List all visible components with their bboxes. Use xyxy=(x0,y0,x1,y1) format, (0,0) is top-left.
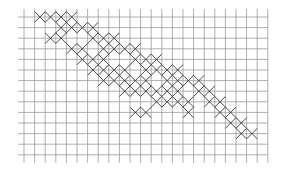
cross-stitch-diagram xyxy=(0,0,285,178)
grid-lines xyxy=(18,9,268,163)
cross-marks xyxy=(35,12,258,139)
